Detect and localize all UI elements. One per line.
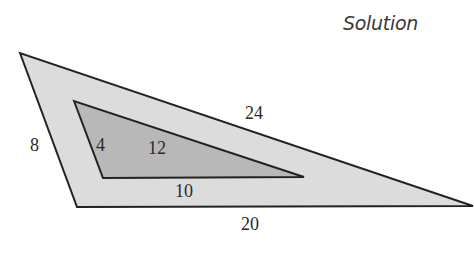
solution-heading: Solution <box>343 12 418 34</box>
outer-top-side-label: 24 <box>245 104 263 122</box>
inner-bottom-side-label: 10 <box>175 182 193 200</box>
inner-top-side-label: 12 <box>148 139 166 157</box>
similar-triangles-figure: Solution 8 24 20 4 12 10 <box>0 0 474 253</box>
inner-left-side-label: 4 <box>96 136 105 154</box>
outer-bottom-side-label: 20 <box>241 215 259 233</box>
outer-left-side-label: 8 <box>30 136 39 154</box>
triangles-svg <box>0 0 474 253</box>
